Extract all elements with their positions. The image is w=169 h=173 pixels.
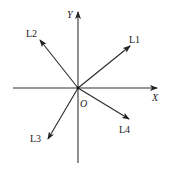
vector-label-l3: L3 bbox=[30, 133, 41, 144]
origin-point bbox=[77, 87, 80, 90]
vector-l1 bbox=[78, 46, 130, 88]
vector-label-l1: L1 bbox=[129, 34, 140, 45]
vector-label-l2: L2 bbox=[26, 28, 37, 39]
y-axis-label: Y bbox=[67, 9, 74, 20]
vector-l3 bbox=[48, 88, 78, 139]
vector-label-l4: L4 bbox=[119, 124, 130, 135]
x-axis-label: X bbox=[151, 92, 159, 103]
vector-l2 bbox=[40, 40, 78, 88]
vector-diagram: Y X O L1 L2 L3 L4 bbox=[0, 0, 169, 173]
origin-label: O bbox=[80, 98, 87, 109]
